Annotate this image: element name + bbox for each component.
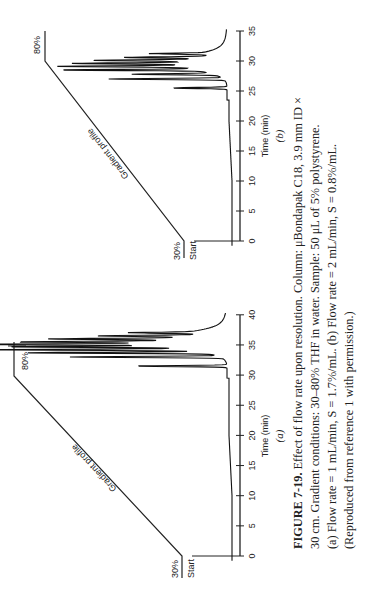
- panel-a-low-pct: 30%: [170, 560, 180, 578]
- panel-b-xlabel: Time (min): [260, 115, 270, 158]
- caption-line-2: 30 cm. Gradient conditions: 30–80% THF i…: [307, 29, 324, 549]
- tick-label: 40: [247, 310, 257, 320]
- panel-b: 05101520253035 Time (min) (b) 30% 80% St…: [32, 26, 286, 260]
- tick-label: 15: [247, 146, 257, 156]
- tick-label: 35: [247, 340, 257, 350]
- tick-label: 15: [247, 461, 257, 471]
- tick-label: 0: [247, 553, 257, 558]
- panel-a-high-pct: 80%: [20, 352, 30, 370]
- panel-a-sublabel: (a): [273, 429, 286, 442]
- panel-b-start-label: Start: [188, 240, 198, 260]
- tick-label: 25: [247, 86, 257, 96]
- panel-a: 0510152025303540 Time (min) (a) 30% 80% …: [0, 310, 286, 578]
- figure-number: FIGURE 7-19.: [291, 472, 305, 549]
- panel-a-xlabel: Time (min): [260, 415, 270, 458]
- panel-b-sublabel: (b): [273, 129, 286, 142]
- panel-b-high-pct: 80%: [32, 36, 42, 54]
- panel-b-chromatogram-trace: [57, 29, 232, 246]
- panel-b-profile-label: Gradient profile: [85, 127, 131, 182]
- panel-b-ticks: 05101520253035: [236, 26, 257, 244]
- tick-label: 30: [247, 370, 257, 380]
- tick-label: 20: [247, 430, 257, 440]
- panel-a-gradient-profile: [14, 342, 182, 578]
- panel-b-low-pct: 30%: [172, 242, 182, 260]
- tick-label: 10: [247, 176, 257, 186]
- tick-label: 30: [247, 56, 257, 66]
- panel-a-chromatogram-trace: [0, 313, 232, 561]
- tick-label: 10: [247, 491, 257, 501]
- caption-line-1: Effect of flow rate upon resolution. Col…: [291, 97, 305, 469]
- caption-line-4: (Reproduced from reference 1 with permis…: [341, 29, 358, 549]
- tick-label: 25: [247, 400, 257, 410]
- figure-caption: FIGURE 7-19. Effect of flow rate upon re…: [290, 29, 358, 549]
- panel-a-ticks: 0510152025303540: [236, 310, 257, 559]
- tick-label: 5: [247, 208, 257, 213]
- tick-label: 5: [247, 523, 257, 528]
- panel-a-start-label: Start: [186, 558, 196, 578]
- tick-label: 0: [247, 238, 257, 243]
- panel-a-profile-label: Gradient profile: [69, 442, 118, 494]
- figure-page: 0510152025303540 Time (min) (a) 30% 80% …: [0, 0, 375, 594]
- caption-line-3: (a) Flow rate = 1 mL/min, S = 1.7%/mL. (…: [324, 29, 341, 549]
- tick-label: 35: [247, 26, 257, 36]
- tick-label: 20: [247, 116, 257, 126]
